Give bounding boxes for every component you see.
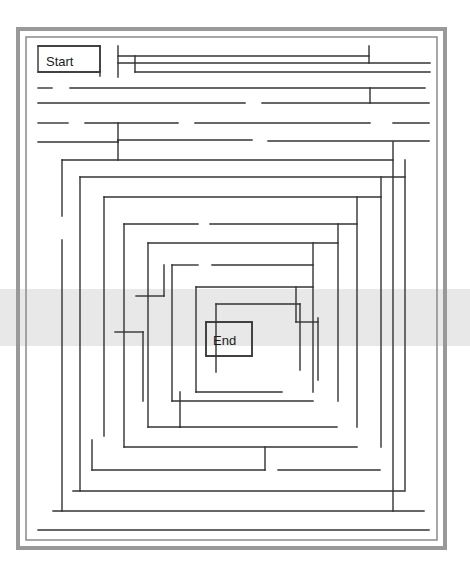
maze-svg: Start End [0,0,470,568]
end-label: End [213,333,236,348]
maze-container: Start End [0,0,470,568]
start-label: Start [46,54,74,69]
maze-wall-layer [38,46,430,530]
maze-inner-frame [26,37,437,540]
